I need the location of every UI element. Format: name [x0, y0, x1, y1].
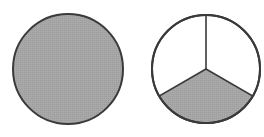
thirds-circle	[152, 15, 260, 123]
fraction-diagram	[0, 0, 264, 137]
whole-circle	[13, 14, 123, 124]
